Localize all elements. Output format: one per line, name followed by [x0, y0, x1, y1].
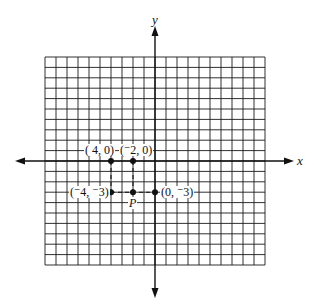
- y-axis-down-arrow-icon: [152, 288, 159, 298]
- point-dot-pt-neg4-0: [108, 158, 114, 164]
- coordinate-grid-svg: [0, 0, 316, 307]
- axes: [15, 26, 294, 298]
- point-label-neg2-0: (⁻2, 0): [119, 144, 153, 156]
- y-axis-up-arrow-icon: [152, 26, 159, 36]
- point-dot-pt-P: [130, 189, 136, 195]
- point-label-P: P: [128, 197, 137, 209]
- coordinate-plane: y x ( 4, 0) (⁻2, 0) (⁻4, ⁻3) P (0, ⁻3): [0, 0, 316, 307]
- point-dot-pt-neg2-0: [130, 158, 136, 164]
- point-label-neg4-neg3: (⁻4, ⁻3): [69, 186, 110, 198]
- point-label-0-neg3: (0, ⁻3): [160, 186, 194, 198]
- x-axis-left-arrow-icon: [15, 158, 25, 165]
- point-label-neg4-0: ( 4, 0): [84, 144, 115, 156]
- point-dot-pt-0-neg3: [152, 189, 158, 195]
- x-axis-label: x: [297, 154, 303, 167]
- x-axis-right-arrow-icon: [284, 158, 294, 165]
- y-axis-label: y: [152, 13, 158, 26]
